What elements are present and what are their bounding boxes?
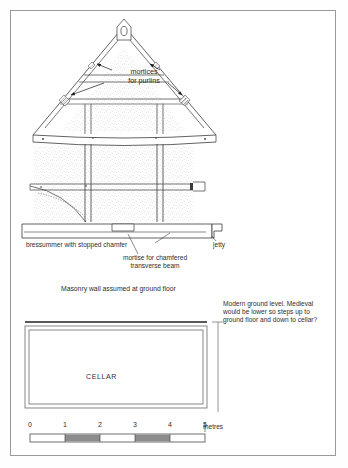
- cellar-inner: [29, 330, 203, 404]
- jetty-step-profile: [212, 224, 222, 238]
- label-modern-ground-level: Modern ground level. Medievalwould be lo…: [223, 300, 341, 325]
- label-mortise-line1: mortise for chamfered: [123, 254, 187, 261]
- bressummer-group: [22, 224, 222, 254]
- mortise-mark-right: [190, 183, 193, 190]
- label-mortise-transverse-beam: mortise for chamferedtransverse beam: [100, 254, 210, 270]
- peg-dot: [42, 138, 44, 140]
- page-canvas: morticesfor purlins bressummer with stop…: [0, 0, 348, 468]
- label-modern-line2: would be lower so steps up to: [223, 308, 310, 315]
- label-mortices-line2: for purlins: [128, 76, 160, 85]
- label-masonry-wall: Masonry wall assumed at ground floor: [61, 285, 176, 293]
- peg-dot: [40, 186, 42, 188]
- label-mortise-line2: transverse beam: [130, 262, 179, 269]
- label-modern-line3: ground floor and down to cellar?: [223, 316, 317, 323]
- scale-tick-label: 3: [133, 421, 137, 428]
- label-mortices-for-purlins: morticesfor purlins: [104, 67, 184, 85]
- scale-tick-label: 1: [63, 421, 67, 428]
- mortice-slot-lower-left: [59, 95, 70, 106]
- scale-tick-label: 0: [28, 421, 32, 428]
- peg-dot: [155, 137, 157, 139]
- wall-frame-group: [30, 144, 205, 222]
- label-modern-line1: Modern ground level. Medieval: [223, 300, 313, 307]
- label-bressummer: bressummer with stopped chamfer: [26, 241, 127, 249]
- scale-bar-group: [30, 422, 205, 442]
- cellar-group: [25, 322, 224, 412]
- scale-tick-label: 5: [203, 421, 207, 428]
- tie-beam-top: [33, 135, 216, 138]
- label-jetty: jetty: [213, 241, 225, 249]
- apex-peg-hole-icon: [121, 26, 127, 35]
- scale-tick-label: 2: [98, 421, 102, 428]
- gable-infill: [62, 48, 186, 132]
- peg-dot: [204, 138, 206, 140]
- peg-dot: [85, 185, 87, 187]
- tie-beam-bottom: [33, 142, 216, 146]
- scale-bar-segment-shaded-2: [135, 435, 170, 442]
- label-mortices-line1: mortices: [130, 67, 157, 76]
- scale-bar-frame: [30, 434, 205, 442]
- scale-bar-segment-shaded-1: [65, 435, 100, 442]
- mortise-transverse-beam: [112, 224, 134, 231]
- mortice-slot-lower-right: [179, 95, 190, 106]
- scale-tick-label: 4: [168, 421, 172, 428]
- tenon-stub-right: [193, 182, 205, 191]
- peg-dot: [92, 137, 94, 139]
- label-cellar: CELLAR: [86, 373, 117, 382]
